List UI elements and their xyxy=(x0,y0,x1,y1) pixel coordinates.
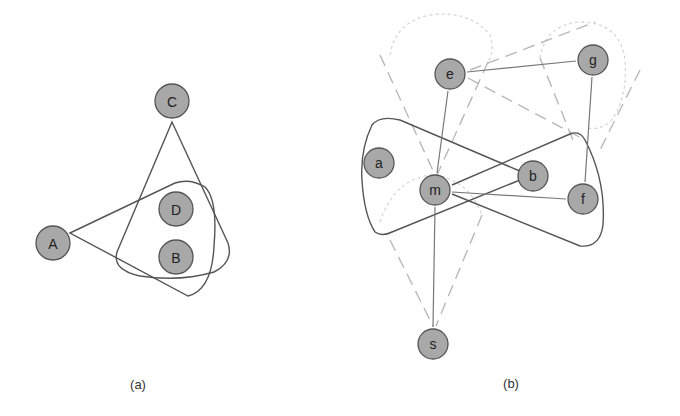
dashed-hyperedge-g-e xyxy=(470,22,595,70)
svg-text:B: B xyxy=(171,250,180,266)
dashed-hyperedge-e-f xyxy=(468,78,585,140)
caption-a: (a) xyxy=(130,377,146,392)
svg-text:D: D xyxy=(171,202,181,218)
dashed-hyperedge-g-f-right xyxy=(600,70,640,150)
svg-text:e: e xyxy=(446,66,454,82)
panel-a: C D B A (a) xyxy=(36,84,229,392)
dashed-hyperedge-s-left xyxy=(390,240,433,326)
node-e: e xyxy=(435,59,465,89)
edge-e-m xyxy=(437,91,448,173)
node-C: C xyxy=(155,84,189,118)
svg-text:f: f xyxy=(581,191,585,207)
edge-m-f xyxy=(452,192,566,199)
hyperedge-a-db xyxy=(70,181,215,296)
svg-text:b: b xyxy=(529,168,537,184)
edge-m-s xyxy=(433,207,435,327)
node-m: m xyxy=(420,175,450,205)
node-f: f xyxy=(568,184,598,214)
svg-text:g: g xyxy=(589,52,597,68)
svg-text:A: A xyxy=(48,236,58,252)
node-B: B xyxy=(159,240,193,274)
node-g: g xyxy=(578,45,608,75)
caption-b: (b) xyxy=(503,376,519,391)
dotted-loop-g xyxy=(540,22,625,128)
dotted-loop-e xyxy=(390,14,492,62)
svg-text:C: C xyxy=(167,94,177,110)
svg-text:a: a xyxy=(375,155,383,171)
edge-g-f xyxy=(585,77,592,182)
edge-e-g xyxy=(467,61,576,72)
node-b: b xyxy=(518,161,548,191)
dashed-hyperedge-g-f-left xyxy=(540,58,575,145)
hypergraph-figure: C D B A (a) xyxy=(0,0,680,416)
node-A: A xyxy=(36,226,70,260)
node-D: D xyxy=(159,192,193,226)
svg-text:s: s xyxy=(430,336,437,352)
panel-b: e g a m b f s (b) xyxy=(362,14,640,391)
dashed-hyperedge-s-right xyxy=(436,215,482,326)
node-s: s xyxy=(418,329,448,359)
svg-text:m: m xyxy=(429,182,441,198)
node-a: a xyxy=(364,148,394,178)
